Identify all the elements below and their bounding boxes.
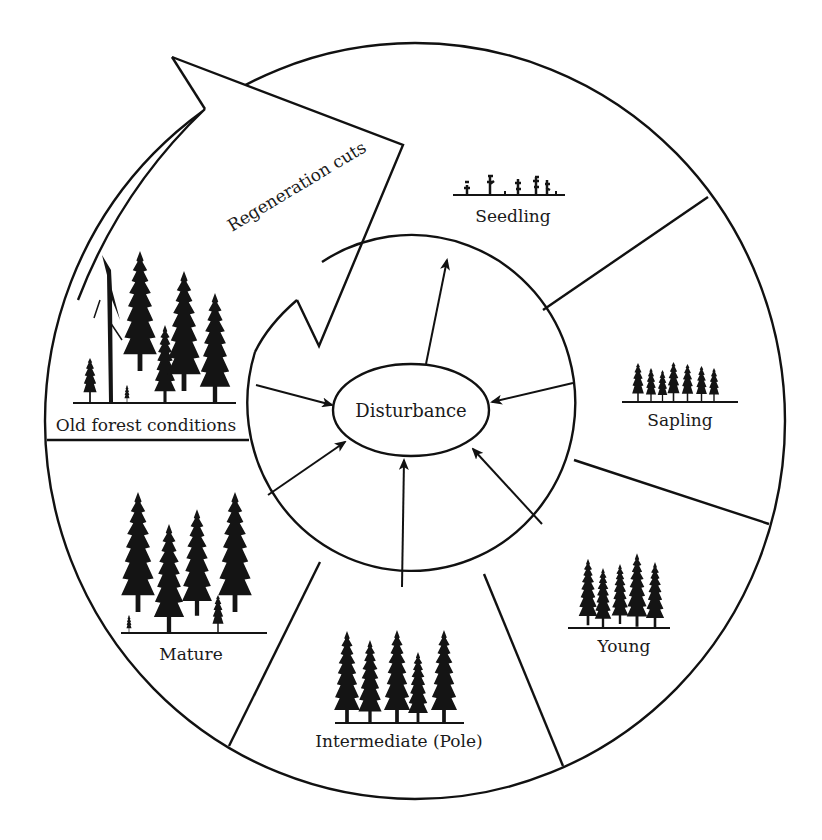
intermediate-label: Intermediate (Pole) (315, 731, 482, 751)
old-forest-label: Old forest conditions (56, 415, 237, 435)
young-trees-icon (568, 553, 670, 628)
young-label: Young (597, 636, 651, 656)
divider-young-intermediate (484, 574, 563, 766)
mature-trees-icon (121, 492, 267, 633)
arrow-disturbance-to-seedling (426, 260, 447, 364)
stage-young: Young (568, 553, 670, 656)
disturbance-label: Disturbance (355, 400, 466, 421)
stage-mature: Mature (121, 492, 267, 664)
arrow-mature-to-disturbance (268, 442, 345, 495)
forest-cycle-diagram: Disturbance Regeneration cuts Seedling (0, 0, 822, 840)
divider-seedling-sapling (543, 197, 708, 310)
stage-seedling: Seedling (453, 176, 565, 226)
stage-intermediate: Intermediate (Pole) (315, 630, 482, 751)
intermediate-trees-icon (334, 630, 464, 723)
arrow-intermediate-to-disturbance (402, 460, 404, 587)
divider-sapling-young (574, 460, 769, 524)
seedling-label: Seedling (475, 206, 550, 226)
seedling-trees-icon (453, 176, 565, 195)
arrow-sapling-to-disturbance (492, 383, 573, 402)
stage-sapling: Sapling (622, 362, 738, 430)
mature-label: Mature (159, 644, 223, 664)
disturbance-node: Disturbance (333, 364, 489, 456)
arrow-old-to-disturbance (256, 385, 332, 405)
sapling-trees-icon (622, 362, 738, 402)
sapling-label: Sapling (647, 410, 712, 430)
arrow-young-to-disturbance (473, 449, 542, 524)
